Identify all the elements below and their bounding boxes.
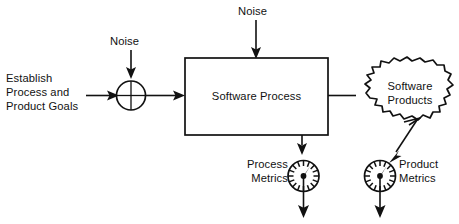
process-metrics-line-2: Metrics [251,172,288,184]
process-measurement-diagram: Establish Process and Product Goals Nois… [0,0,459,224]
establish-goals-label: Establish Process and Product Goals [6,72,78,112]
software-process-label: Software Process [212,90,302,102]
noise-left-label: Noise [110,35,139,47]
process-metrics-line-1: Process [247,158,288,170]
arrow-products-to-product-metrics [389,118,420,163]
noise-top-group: Noise [238,5,267,59]
software-products-line-1: Software [388,80,433,92]
product-metrics-line-2: Metrics [399,172,436,184]
summing-junction [117,81,146,110]
product-metrics-line-1: Product [399,158,439,170]
product-metrics-label: Product Metrics [399,158,439,184]
software-products-line-2: Products [388,94,433,106]
arrow-process-to-products [328,90,366,96]
arrow-process-to-process-metrics [297,135,307,155]
goals-line-2: Process and [6,86,69,98]
noise-top-label: Noise [238,5,267,17]
noise-left-group: Noise [110,35,139,79]
arrow-junction-to-process [146,91,186,101]
arrow-goals-to-junction [86,91,119,101]
goals-line-3: Product Goals [6,100,78,112]
process-metrics-label: Process Metrics [247,158,288,184]
diagram-canvas: Establish Process and Product Goals Nois… [0,0,459,224]
software-products-cloud: Software Products [365,57,453,120]
goals-line-1: Establish [6,72,52,84]
software-process-box: Software Process [185,58,328,135]
